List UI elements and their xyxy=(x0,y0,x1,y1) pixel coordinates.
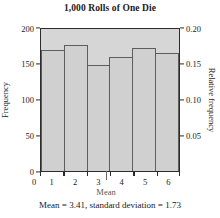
y2-tick-label: 0.20 xyxy=(186,25,201,34)
bar-2[interactable] xyxy=(64,45,88,171)
x-tick-mark xyxy=(157,172,158,176)
x-tick-mark xyxy=(87,172,88,176)
plot-area xyxy=(40,28,180,172)
bar-3[interactable] xyxy=(87,65,111,171)
mean-annotation-label: Mean xyxy=(96,187,115,197)
bar-series xyxy=(41,29,179,171)
x-tick-mark xyxy=(133,172,134,176)
bar-6[interactable] xyxy=(155,53,179,171)
x-tick-label-5: 5 xyxy=(143,177,147,187)
y-tick-label: 100 xyxy=(21,96,34,105)
y2-tick-mark xyxy=(180,27,184,28)
figure: 1,000 Rolls of One Die 0 50 100 150 200 … xyxy=(0,0,220,218)
y2-tick-mark xyxy=(180,99,184,100)
x-tick-mark xyxy=(179,172,180,176)
x-tick-label-0: 0 xyxy=(32,177,36,187)
y-axis-label: Frequency xyxy=(0,82,10,118)
x-tick-mark xyxy=(63,172,64,176)
chart-caption: Mean = 3.41, standard deviation = 1.73 xyxy=(0,200,220,210)
chart-title: 1,000 Rolls of One Die xyxy=(0,3,220,13)
y2-tick-label: 0.15 xyxy=(186,60,201,69)
y2-tick-label: 0.05 xyxy=(186,132,201,141)
y-tick-label: 200 xyxy=(21,25,34,34)
x-tick-label-6: 6 xyxy=(166,177,170,187)
y-tick-label: 50 xyxy=(26,132,35,141)
y2-tick-label: 0.10 xyxy=(186,96,201,105)
y2-tick-mark xyxy=(180,135,184,136)
mean-marker-icon xyxy=(106,171,107,180)
bar-1[interactable] xyxy=(41,50,65,171)
x-tick-label-1: 1 xyxy=(49,177,53,187)
y2-tick-mark xyxy=(180,63,184,64)
bar-4[interactable] xyxy=(109,57,133,171)
x-tick-label-3: 3 xyxy=(96,177,100,187)
x-tick-label-2: 2 xyxy=(73,177,77,187)
x-tick-label-4: 4 xyxy=(119,177,123,187)
y-tick-label: 150 xyxy=(21,60,34,69)
y2-axis-label: Relative frequency xyxy=(207,68,217,132)
x-tick-mark xyxy=(40,172,41,176)
bar-5[interactable] xyxy=(132,48,156,171)
x-tick-mark xyxy=(110,172,111,176)
x-axis: 1 2 3 4 5 6 Mean xyxy=(40,172,180,194)
y-tick-label: 0 xyxy=(30,168,34,177)
